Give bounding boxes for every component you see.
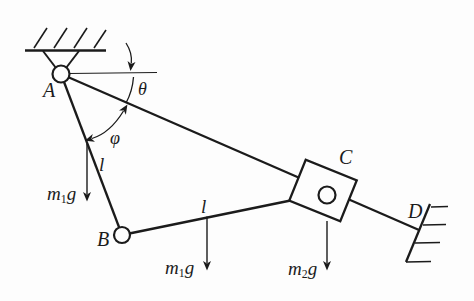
weight-label-rod-ab: m1g xyxy=(47,184,76,203)
length-label-rod-bc: l xyxy=(201,197,206,216)
joint-b-circle xyxy=(114,227,130,243)
rod-ab xyxy=(61,74,122,235)
ceiling-hatching xyxy=(34,28,106,48)
weight-label-slider: m2g xyxy=(288,259,317,278)
angle-label-theta: θ xyxy=(138,80,147,98)
point-label-a: A xyxy=(43,80,55,100)
point-label-b: B xyxy=(97,229,109,249)
theta-arc-lower xyxy=(126,77,134,103)
length-label-rod-ab: l xyxy=(99,155,104,174)
weight-label-rod-bc: m1g xyxy=(165,258,194,277)
linkage-figure: A θ φ l m1g B l m1g C m2g D xyxy=(0,0,474,301)
point-label-c: C xyxy=(339,147,352,167)
guide-rod-ad xyxy=(61,74,419,230)
slider-pin-circle xyxy=(319,187,336,204)
horizontal-reference-line xyxy=(69,73,157,74)
theta-arc xyxy=(126,43,131,64)
angle-label-phi: φ xyxy=(110,129,120,147)
ceiling-support xyxy=(25,28,106,68)
point-label-d: D xyxy=(408,201,422,221)
linkage-diagram xyxy=(0,0,474,301)
